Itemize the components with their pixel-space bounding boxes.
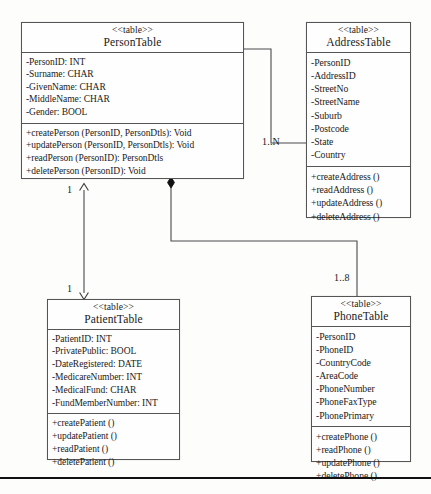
multiplicity-person-patient-top: 1 [67, 184, 72, 195]
operations-compartment-patient-table: +createPatient () +updatePatient () +rea… [48, 414, 179, 472]
attribute-row: -AddressID [311, 69, 410, 82]
operation-row: +deletePerson (PersonID): Void [26, 165, 243, 178]
attribute-row: -PhoneNumber [316, 382, 410, 395]
attribute-row: -PhoneID [316, 343, 410, 356]
operations-compartment-person-table: +createPerson (PersonID, PersonDtls): Vo… [22, 124, 243, 182]
attribute-row: -MiddleName: CHAR [26, 93, 243, 106]
attributes-compartment-person-table: -PersonID: INT -Surname: CHAR -GivenName… [22, 53, 243, 124]
attribute-row: -PrivatePublic: BOOL [52, 345, 179, 358]
multiplicity-person-phone: 1..8 [334, 272, 350, 283]
operation-row: +readPatient () [52, 443, 179, 456]
attribute-row: -PatientID: INT [52, 333, 179, 346]
operation-row: +readPerson (PersonID): PersonDtls [26, 152, 243, 165]
class-header-address-table: <<table>> AddressTable [307, 23, 410, 53]
attribute-row: -MedicalFund: CHAR [52, 384, 179, 397]
attribute-row: -State [311, 135, 410, 148]
attribute-row: -MedicareNumber: INT [52, 371, 179, 384]
attribute-row: -StreetNo [311, 82, 410, 95]
class-name-label: PhoneTable [314, 310, 408, 323]
uml-class-diagram-page: 1..N 1..8 1 1 <<table>> PersonTable -Per… [0, 0, 431, 494]
operation-row: +deletePatient () [52, 456, 179, 469]
attribute-row: -Gender: BOOL [26, 106, 243, 119]
attribute-row: -PhonePrimary [316, 409, 410, 422]
class-header-patient-table: <<table>> PatientTable [48, 300, 179, 330]
attribute-row: -FundMemberNumber: INT [52, 397, 179, 410]
operation-row: +readPhone () [316, 443, 410, 456]
class-name-label: PatientTable [50, 313, 177, 326]
operation-row: +readAddress () [311, 183, 410, 196]
attribute-row: -Suburb [311, 109, 410, 122]
operation-row: +createPerson (PersonID, PersonDtls): Vo… [26, 127, 243, 140]
attributes-compartment-patient-table: -PatientID: INT -PrivatePublic: BOOL -Da… [48, 330, 179, 415]
attribute-row: -PersonID [316, 330, 410, 343]
uml-class-address-table[interactable]: <<table>> AddressTable -PersonID -Addres… [306, 22, 411, 218]
attribute-row: -PersonID [311, 56, 410, 69]
attribute-row: -Postcode [311, 122, 410, 135]
attribute-row: -CountryCode [316, 356, 410, 369]
attribute-row: -PhoneFaxType [316, 395, 410, 408]
uml-class-phone-table[interactable]: <<table>> PhoneTable -PersonID -PhoneID … [311, 296, 411, 462]
operation-row: +updatePhone () [316, 456, 410, 469]
operation-row: +createAddress () [311, 170, 410, 183]
class-name-label: PersonTable [24, 36, 241, 49]
operation-row: +deletePhone () [316, 469, 410, 482]
operation-row: +deleteAddress () [311, 210, 410, 223]
class-header-person-table: <<table>> PersonTable [22, 23, 243, 53]
attribute-row: -AreaCode [316, 369, 410, 382]
operation-row: +createPhone () [316, 430, 410, 443]
stereotype-label: <<table>> [24, 25, 241, 36]
relationship-person-patient [80, 184, 89, 300]
class-header-phone-table: <<table>> PhoneTable [312, 297, 410, 327]
operations-compartment-address-table: +createAddress () +readAddress () +updat… [307, 167, 410, 227]
uml-class-person-table[interactable]: <<table>> PersonTable -PersonID: INT -Su… [21, 22, 244, 179]
stereotype-label: <<table>> [314, 299, 408, 310]
multiplicity-person-address: 1..N [262, 136, 280, 147]
class-name-label: AddressTable [309, 36, 408, 49]
attribute-row: -Country [311, 148, 410, 161]
attribute-row: -StreetName [311, 95, 410, 108]
operation-row: +createPatient () [52, 417, 179, 430]
attribute-row: -PersonID: INT [26, 56, 243, 69]
attribute-row: -Surname: CHAR [26, 68, 243, 81]
stereotype-label: <<table>> [309, 25, 408, 36]
operation-row: +updatePerson (PersonID, PersonDtls): Vo… [26, 139, 243, 152]
footer-horizontal-rule [0, 477, 431, 479]
multiplicity-person-patient-bottom: 1 [67, 283, 72, 294]
attributes-compartment-phone-table: -PersonID -PhoneID -CountryCode -AreaCod… [312, 327, 410, 427]
attribute-row: -DateRegistered: DATE [52, 358, 179, 371]
attributes-compartment-address-table: -PersonID -AddressID -StreetNo -StreetNa… [307, 53, 410, 167]
operation-row: +updatePatient () [52, 430, 179, 443]
attribute-row: -GivenName: CHAR [26, 81, 243, 94]
stereotype-label: <<table>> [50, 302, 177, 313]
uml-class-patient-table[interactable]: <<table>> PatientTable -PatientID: INT -… [47, 299, 180, 460]
operation-row: +updateAddress () [311, 196, 410, 209]
arrowhead-up-person [80, 184, 89, 191]
